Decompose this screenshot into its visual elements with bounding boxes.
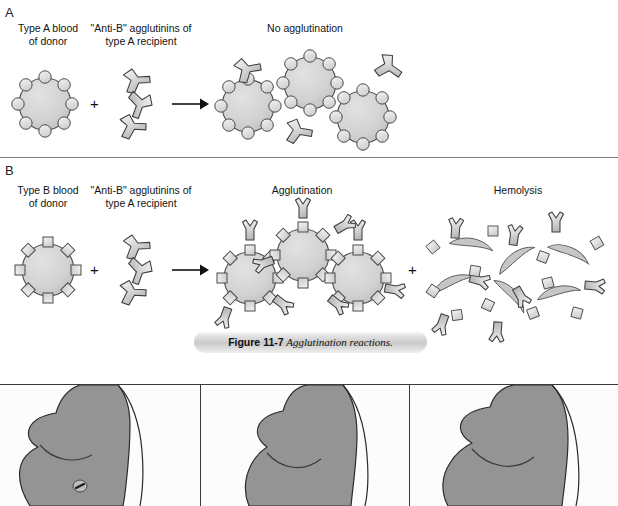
bottom-figure-strip [0,384,618,506]
torso-illustration-3 [410,385,618,506]
torso-panel-2 [201,385,409,506]
torso-illustration-2 [201,385,409,506]
panel-a-arrow-right-icon [172,99,209,110]
panel-b-graphics [0,160,618,325]
panel-a-graphics [0,0,618,160]
panel-b-donor-cell [15,237,81,303]
figure-caption-title: Agglutination reactions. [286,336,393,348]
torso-panel-3 [410,385,618,506]
nipple-marker-1 [73,480,87,492]
torso-illustration-1 [0,385,200,506]
torso-panel-1 [0,385,200,506]
figure-caption-text: Figure 11-7 Agglutination reactions. [228,336,393,348]
panel-b-arrow-right-icon [172,265,209,276]
panel-divider-rule [0,157,618,158]
figure-caption: Figure 11-7 Agglutination reactions. [194,331,427,353]
figure-caption-number: Figure 11-7 [228,336,283,348]
panel-a-donor-cell [12,71,78,137]
